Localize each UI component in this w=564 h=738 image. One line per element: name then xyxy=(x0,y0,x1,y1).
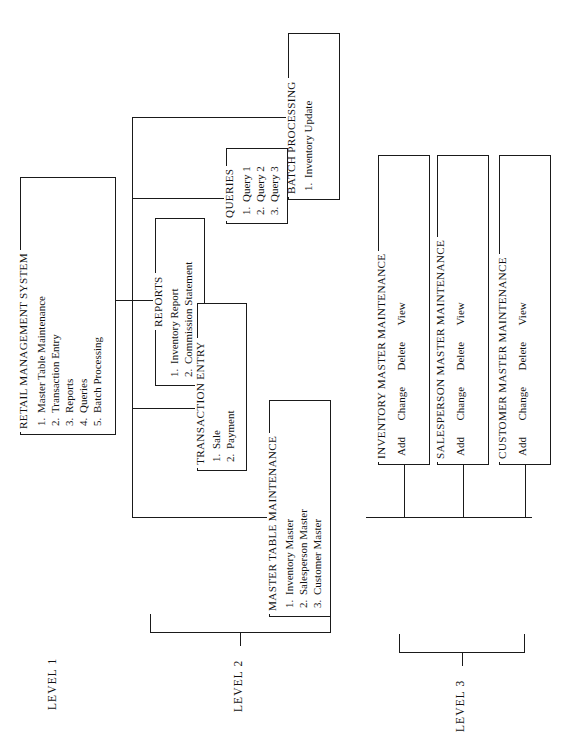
list-item[interactable]: 5.Batch Processing xyxy=(90,176,104,426)
box-inventory-master-maintenance-content: Add Change Delete View xyxy=(395,154,407,456)
item-label: Commission Statement xyxy=(182,262,194,364)
item-number: 2. xyxy=(296,595,310,608)
item-label: Queries xyxy=(77,379,89,413)
item-label: Sale xyxy=(210,430,222,449)
connector-branch-queries xyxy=(132,198,226,199)
item-number: 5. xyxy=(90,413,104,426)
item-label: Payment xyxy=(224,411,236,450)
connector-branch-transaction xyxy=(132,408,197,409)
item-number: 1. xyxy=(282,595,296,608)
level-label-2-text: LEVEL 2 xyxy=(232,660,244,712)
level-label-3-text: LEVEL 3 xyxy=(454,680,466,732)
level-label-2: LEVEL 2 xyxy=(232,660,244,712)
box-retail-management-system-items: 1.Master Table Maintenance 2.Transaction… xyxy=(34,176,104,426)
level-label-3: LEVEL 3 xyxy=(454,680,466,732)
title-text: QUERIES xyxy=(223,169,235,218)
list-item[interactable]: 3.Reports xyxy=(62,176,76,426)
item-label: Inventory Report xyxy=(168,289,180,364)
item-number: 1. xyxy=(239,202,253,215)
box-salesperson-master-maintenance-title: SALESPERSON MASTER MAINTENANCE xyxy=(435,237,446,462)
box-queries[interactable]: 1.Query 1 2.Query 2 3.Query 3 xyxy=(226,148,288,224)
title-text: INVENTORY MASTER MAINTENANCE xyxy=(375,254,387,459)
item-label: Query 2 xyxy=(254,166,266,202)
box-retail-management-system[interactable]: 1.Master Table Maintenance 2.Transaction… xyxy=(20,177,116,435)
level-3-bracket-stem xyxy=(462,652,463,666)
box-queries-content: 1.Query 1 2.Query 2 3.Query 3 xyxy=(239,145,281,215)
list-item[interactable]: 3.Customer Master xyxy=(310,398,324,608)
connector-root-stub xyxy=(115,300,133,301)
actions-row[interactable]: Add Change Delete View xyxy=(454,154,466,456)
item-label: Query 3 xyxy=(268,166,280,202)
title-text: TRANSACTION ENTRY xyxy=(194,341,206,465)
list-item[interactable]: 1.Inventory Report xyxy=(167,215,181,377)
connector-branch-master-table xyxy=(132,517,269,518)
title-text: RETAIL MANAGEMENT SYSTEM xyxy=(17,253,29,429)
level-label-1: LEVEL 1 xyxy=(46,658,58,710)
connector-level3-riser-salesperson xyxy=(463,465,464,518)
box-salesperson-master-maintenance-actions: Add Change Delete View xyxy=(454,154,466,456)
item-number: 3. xyxy=(267,202,281,215)
list-item[interactable]: 2.Query 2 xyxy=(253,145,267,215)
box-transaction-entry-items: 1.Sale 2.Payment xyxy=(209,300,237,462)
actions-row[interactable]: Add Change Delete View xyxy=(395,154,407,456)
box-retail-management-system-content: 1.Master Table Maintenance 2.Transaction… xyxy=(34,176,104,426)
box-reports-items: 1.Inventory Report 2.Commission Statemen… xyxy=(167,215,195,377)
list-item[interactable]: 4.Queries xyxy=(76,176,90,426)
list-item[interactable]: 1.Inventory Master xyxy=(282,398,296,608)
item-label: Transaction Entry xyxy=(49,334,61,413)
level-3-bracket-right-tick xyxy=(524,634,525,653)
title-text: CUSTOMER MASTER MAINTENANCE xyxy=(496,257,508,459)
box-inventory-master-maintenance-title: INVENTORY MASTER MAINTENANCE xyxy=(376,251,387,462)
item-label: Customer Master xyxy=(311,519,323,595)
item-number: 2. xyxy=(48,413,62,426)
list-item[interactable]: 1.Master Table Maintenance xyxy=(34,176,48,426)
connector-level3-riser-customer xyxy=(525,465,526,518)
list-item[interactable]: 2.Transaction Entry xyxy=(48,176,62,426)
connector-root-spine xyxy=(132,117,133,517)
box-inventory-master-maintenance-actions: Add Change Delete View xyxy=(395,154,407,456)
item-number: 3. xyxy=(62,413,76,426)
item-label: Query 1 xyxy=(240,166,252,202)
title-text: SALESPERSON MASTER MAINTENANCE xyxy=(434,240,446,459)
item-number: 1. xyxy=(167,364,181,377)
connector-branch-batch xyxy=(132,117,288,118)
box-master-table-maintenance[interactable]: 1.Inventory Master 2.Salesperson Master … xyxy=(269,400,331,617)
item-number: 2. xyxy=(223,449,237,462)
level-label-1-text: LEVEL 1 xyxy=(46,658,58,710)
box-transaction-entry-title: TRANSACTION ENTRY xyxy=(195,338,206,468)
box-master-table-maintenance-items: 1.Inventory Master 2.Salesperson Master … xyxy=(282,398,324,608)
item-label: Reports xyxy=(63,379,75,413)
item-number: 4. xyxy=(76,413,90,426)
level-2-bracket-right-tick xyxy=(330,614,331,633)
list-item[interactable]: 1.Sale xyxy=(209,300,223,462)
actions-row[interactable]: Add Change Delete View xyxy=(516,154,528,456)
box-reports-title: REPORTS xyxy=(153,273,164,330)
box-transaction-entry-content: 1.Sale 2.Payment xyxy=(209,300,237,462)
box-reports-content: 1.Inventory Report 2.Commission Statemen… xyxy=(167,215,195,377)
box-master-table-maintenance-content: 1.Inventory Master 2.Salesperson Master … xyxy=(282,398,324,608)
list-item[interactable]: 2.Payment xyxy=(223,300,237,462)
box-retail-management-system-title: RETAIL MANAGEMENT SYSTEM xyxy=(18,250,29,432)
connector-level3-riser-inventory xyxy=(404,465,405,518)
item-label: Inventory Update xyxy=(302,101,314,178)
item-label: Salesperson Master xyxy=(297,509,309,595)
item-label: Master Table Maintenance xyxy=(35,296,47,413)
list-item[interactable]: 2.Salesperson Master xyxy=(296,398,310,608)
box-customer-master-maintenance-content: Add Change Delete View xyxy=(516,154,528,456)
box-master-table-maintenance-title: MASTER TABLE MAINTENANCE xyxy=(267,433,278,614)
item-number: 3. xyxy=(310,595,324,608)
title-text: REPORTS xyxy=(152,276,164,327)
box-customer-master-maintenance-actions: Add Change Delete View xyxy=(516,154,528,456)
diagram-canvas: 1.Master Table Maintenance 2.Transaction… xyxy=(0,0,564,738)
list-item[interactable]: 1.Inventory Update xyxy=(301,31,315,191)
level-2-bracket-stem xyxy=(240,632,241,646)
level-3-bracket-left-tick xyxy=(399,634,400,653)
item-number: 1. xyxy=(34,413,48,426)
level-2-bracket-left-tick xyxy=(150,614,151,633)
list-item[interactable]: 1.Query 1 xyxy=(239,145,253,215)
title-text: MASTER TABLE MAINTENANCE xyxy=(266,436,278,611)
item-number: 1. xyxy=(209,449,223,462)
box-batch-processing-content: 1.Inventory Update xyxy=(301,31,315,191)
box-queries-title: QUERIES xyxy=(224,166,235,221)
list-item[interactable]: 3.Query 3 xyxy=(267,145,281,215)
